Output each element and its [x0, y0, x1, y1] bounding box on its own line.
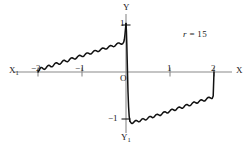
curve-right-branch [130, 72, 214, 124]
x-tick-label-neg2: −2 [31, 64, 41, 73]
y-tick-label-pos1: 1 [120, 19, 125, 28]
origin-label: O [120, 74, 127, 83]
parameter-annotation: r = 15 [183, 30, 207, 39]
parameter-equals: = [189, 29, 194, 39]
figure-container: X1 X Y Y1 O −2 −1 1 2 1 −1 r = 15 [0, 0, 249, 147]
x-tick-label-neg1: −1 [75, 64, 85, 73]
y-axis-negative-label: Y1 [121, 133, 131, 142]
x-tick-label-pos1: 1 [167, 64, 172, 73]
y-axis-positive-label: Y [123, 3, 130, 12]
parameter-value: 15 [197, 29, 207, 39]
x-axis-negative-label: X1 [9, 66, 19, 75]
y-tick-label-neg1: −1 [108, 114, 118, 123]
x-axis-positive-label: X [236, 66, 243, 75]
x-tick-label-pos2: 2 [211, 64, 216, 73]
parameter-symbol: r [183, 29, 187, 39]
